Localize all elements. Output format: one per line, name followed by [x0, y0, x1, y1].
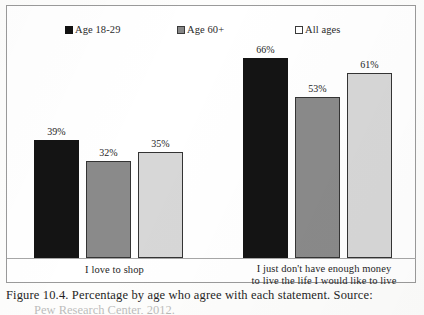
bar-value-label-1-0: 66%: [237, 44, 294, 55]
legend-entry-all-ages: All ages: [295, 24, 341, 35]
legend-label-age-60-plus: Age 60+: [187, 24, 224, 35]
figure-page: Age 18-29 Age 60+ All ages 39%32%35%66%5…: [0, 0, 424, 315]
x-axis-category-label-0: I love to shop: [32, 264, 197, 276]
figure-caption: Figure 10.4. Percentage by age who agree…: [6, 288, 420, 303]
bar-value-label-1-1: 53%: [289, 83, 346, 94]
legend-swatch-icon-age-18-29: [65, 26, 73, 34]
x-axis-category-label-1-line-1: to live the life I would like to live: [229, 275, 419, 287]
x-axis-category-label-0-line-0: I love to shop: [32, 264, 197, 276]
bar-value-label-0-0: 39%: [28, 126, 85, 137]
legend-label-age-18-29: Age 18-29: [75, 24, 121, 35]
bar-0-1: [86, 161, 131, 258]
bar-value-label-1-2: 61%: [341, 59, 398, 70]
legend-label-all-ages: All ages: [305, 24, 341, 35]
bar-0-2: [138, 152, 183, 258]
x-axis-category-label-1: I just don't have enough money to live t…: [229, 263, 419, 287]
legend-entry-age-18-29: Age 18-29: [65, 24, 121, 35]
bar-value-label-0-2: 35%: [132, 138, 189, 149]
bar-value-label-0-1: 32%: [80, 147, 137, 158]
legend-swatch-icon-age-60-plus: [177, 26, 185, 34]
chart-legend: Age 18-29 Age 60+ All ages: [7, 24, 417, 40]
bar-1-1: [295, 97, 340, 258]
chart-baseline-axis: [7, 258, 416, 259]
bar-1-0: [243, 58, 288, 258]
figure-caption-clipped-line: Pew Research Center, 2012.: [34, 303, 414, 314]
chart-plot-frame: Age 18-29 Age 60+ All ages 39%32%35%66%5…: [6, 5, 416, 283]
x-axis-category-label-1-line-0: I just don't have enough money: [229, 263, 419, 275]
legend-entry-age-60-plus: Age 60+: [177, 24, 224, 35]
bar-1-2: [347, 73, 392, 258]
bar-0-0: [34, 140, 79, 258]
legend-swatch-icon-all-ages: [295, 26, 303, 34]
